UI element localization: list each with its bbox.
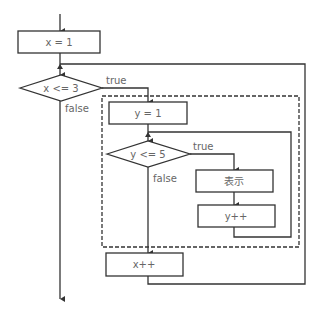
edge-condy-true	[190, 154, 234, 170]
cond-y-true-label: true	[193, 141, 214, 152]
cond-y-label: y <= 5	[130, 149, 165, 160]
cond-y-false-label: false	[153, 173, 177, 184]
cond-x-node: x <= 3	[20, 75, 102, 101]
display-label: 表示	[224, 175, 244, 187]
inc-y-label: y++	[225, 211, 248, 222]
init-x-label: x = 1	[45, 37, 72, 48]
init-x-node: x = 1	[18, 31, 100, 53]
cond-x-label: x <= 3	[43, 83, 78, 94]
inc-x-node: x++	[106, 253, 183, 276]
cond-x-false-label: false	[65, 103, 89, 114]
init-y-label: y = 1	[134, 108, 161, 119]
cond-x-true-label: true	[106, 75, 127, 86]
inc-y-node: y++	[198, 205, 275, 227]
edge-condx-true	[102, 88, 148, 102]
display-node: 表示	[196, 170, 273, 192]
cond-y-node: y <= 5	[107, 141, 190, 167]
inc-x-label: x++	[133, 259, 156, 270]
flowchart-canvas: x = 1 x <= 3 true false y = 1 y <= 5 tru…	[0, 0, 323, 313]
init-y-node: y = 1	[109, 102, 187, 124]
